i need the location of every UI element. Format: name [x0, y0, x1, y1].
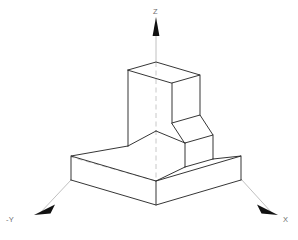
solid-object-l-block: [71, 62, 241, 205]
negative-y-axis-arrowhead: [34, 205, 55, 216]
x-axis-label: X: [283, 215, 288, 224]
z-axis-arrowhead: [153, 17, 160, 36]
z-axis-label: Z: [153, 7, 158, 16]
x-axis-arrowhead: [257, 205, 278, 216]
x-axis-line: [241, 179, 272, 213]
isometric-drawing-svg: Z X -Y: [0, 0, 298, 240]
negative-y-axis-label: -Y: [6, 215, 14, 224]
negative-y-axis-line: [40, 180, 71, 213]
isometric-drawing-canvas: Z X -Y: [0, 0, 298, 240]
